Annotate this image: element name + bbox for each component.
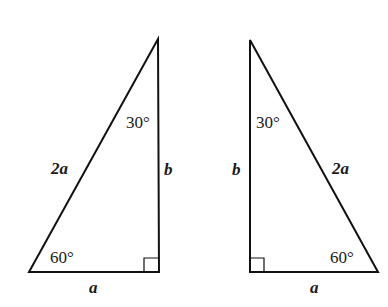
right-base-label: a [310, 278, 319, 297]
left-hypotenuse-label: 2a [50, 159, 69, 178]
right-triangle: 30° 60° 2a b a [232, 40, 378, 297]
left-vertical-side-label: b [164, 160, 173, 179]
right-angle-60-label: 60° [330, 248, 354, 267]
right-vertical-side-label: b [232, 160, 241, 179]
left-angle-30-label: 30° [126, 113, 150, 132]
right-hypotenuse-label: 2a [331, 159, 350, 178]
left-triangle: 30° 60° 2a b a [29, 39, 173, 297]
left-base-label: a [89, 278, 98, 297]
left-right-angle-marker [144, 258, 158, 272]
left-angle-60-label: 60° [50, 248, 74, 267]
left-triangle-outline [29, 39, 159, 272]
right-angle-30-label: 30° [256, 113, 280, 132]
right-triangle-outline [250, 40, 378, 272]
right-right-angle-marker [250, 258, 264, 272]
triangles-diagram: 30° 60° 2a b a 30° 60° 2a b a [0, 0, 388, 307]
